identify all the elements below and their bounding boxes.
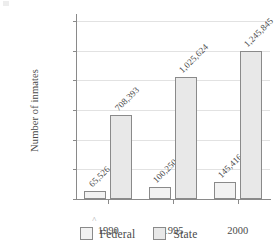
state-swatch-icon	[153, 227, 166, 240]
bar-state-2000	[240, 51, 262, 199]
bar-value-label: 708,393	[112, 85, 140, 113]
x-tick-mark	[173, 200, 174, 204]
legend-entry-state: State	[153, 227, 197, 240]
y-tick-mark	[73, 51, 76, 52]
chart-legend: Federal State	[0, 227, 277, 240]
x-tick-mark	[108, 200, 109, 204]
legend-label-federal: Federal	[100, 228, 136, 240]
corner-artifact	[3, 1, 9, 6]
x-tick-mark	[238, 200, 239, 204]
y-tick-mark	[73, 110, 76, 111]
stray-ink-mark: ˄	[92, 215, 97, 224]
bar-value-label: 65,526	[86, 164, 111, 189]
y-axis-title: Number of inmates	[29, 31, 40, 191]
plot-area: 0250,000500,000750,0001,000,0001,250,000…	[76, 22, 270, 200]
bar-federal-1995	[149, 187, 171, 199]
bar-federal-2000	[214, 182, 236, 199]
y-tick-mark	[73, 169, 76, 170]
federal-swatch-icon	[80, 227, 93, 240]
gridline	[77, 21, 270, 22]
bar-federal-1990	[84, 191, 106, 199]
legend-label-state: State	[173, 228, 197, 240]
y-tick-mark	[73, 140, 76, 141]
y-axis-line	[76, 14, 77, 200]
y-tick-mark	[73, 21, 76, 22]
y-tick-mark	[73, 199, 76, 200]
y-tick-mark	[73, 80, 76, 81]
bar-value-label: 1,025,624	[177, 42, 210, 75]
bar-state-1995	[175, 77, 197, 199]
bar-state-1990	[110, 115, 132, 199]
legend-entry-federal: Federal	[80, 227, 136, 240]
bar-chart: Number of inmates 0250,000500,000750,000…	[0, 0, 277, 251]
